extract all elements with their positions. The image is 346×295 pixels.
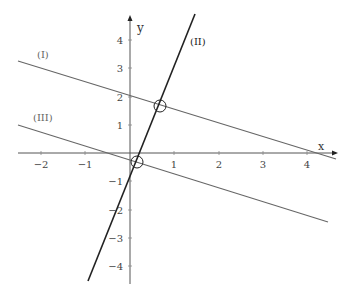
- x-tick-label: 1: [171, 159, 177, 170]
- x-axis-label: x: [318, 140, 325, 153]
- y-tick-label: −1: [108, 176, 123, 187]
- y-tick-label: −3: [108, 233, 123, 244]
- y-tick-label: 3: [117, 63, 123, 74]
- x-tick-label: 3: [260, 159, 266, 170]
- y-tick-label: 1: [117, 120, 123, 131]
- x-tick-label: −1: [78, 159, 93, 170]
- line-I-label: (I): [37, 49, 49, 60]
- x-tick-labels: −2 −1 1 2 3 4: [34, 159, 311, 170]
- x-tick-label: −2: [34, 159, 49, 170]
- chart-svg: −2 −1 1 2 3 4 4 3 2 1 −1 −2 −3 −4 y x (I…: [0, 0, 346, 295]
- line-II: [88, 14, 195, 281]
- line-II-label: (II): [190, 36, 206, 47]
- chart-container: −2 −1 1 2 3 4 4 3 2 1 −1 −2 −3 −4 y x (I…: [0, 0, 346, 295]
- y-tick-label: 4: [117, 35, 123, 46]
- y-tick-label: 2: [117, 92, 123, 103]
- line-III-label: (III): [33, 112, 53, 123]
- y-axis-label: y: [136, 21, 144, 35]
- y-tick-label: −4: [108, 261, 123, 272]
- line-III: [18, 125, 328, 222]
- y-axis-arrow-icon: [128, 15, 133, 21]
- line-I: [18, 61, 336, 159]
- x-tick-label: 2: [216, 159, 222, 170]
- x-tick-label: 4: [304, 159, 310, 170]
- x-axis-arrow-icon: [332, 151, 338, 156]
